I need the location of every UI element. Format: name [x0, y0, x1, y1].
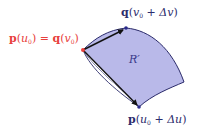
point-top: [124, 26, 128, 30]
label-start: p(u0) = q(v0): [9, 32, 79, 45]
point-bottom: [137, 105, 141, 109]
label-top: q(v0 + Δv): [121, 6, 178, 19]
point-start: [81, 48, 85, 52]
label-bottom: p(u0 + Δu): [128, 113, 186, 126]
label-region: R′: [129, 53, 140, 66]
